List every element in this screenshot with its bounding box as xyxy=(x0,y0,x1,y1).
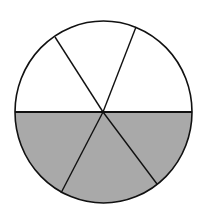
divider-top-right xyxy=(103,27,136,112)
shaded-half xyxy=(15,112,192,203)
fraction-circle-diagram xyxy=(0,0,203,210)
divider-top-left xyxy=(55,37,103,112)
